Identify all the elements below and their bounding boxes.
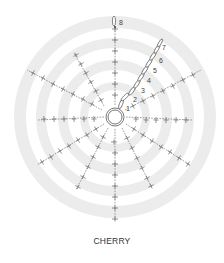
round-number-label: 3 bbox=[141, 87, 145, 94]
round-number-label: 7 bbox=[162, 44, 166, 51]
round-number-label: 2 bbox=[133, 96, 137, 103]
round-number-label: 8 bbox=[119, 19, 123, 26]
crochet-chart: 12345678 bbox=[0, 0, 224, 235]
spoke bbox=[126, 116, 192, 123]
chain-stitch-icon bbox=[112, 16, 115, 26]
round-number-label: 6 bbox=[159, 57, 163, 64]
pattern-title: CHERRY bbox=[0, 236, 224, 246]
slip-stitch-icon bbox=[114, 26, 116, 28]
round-number-label: 5 bbox=[153, 67, 157, 74]
magic-ring-icon bbox=[106, 108, 124, 126]
center-ring bbox=[106, 108, 124, 126]
spoke bbox=[38, 116, 104, 122]
chain-stitch-icon bbox=[120, 92, 129, 101]
round-number-label: 1 bbox=[126, 105, 130, 112]
round-number-label: 4 bbox=[147, 77, 151, 84]
